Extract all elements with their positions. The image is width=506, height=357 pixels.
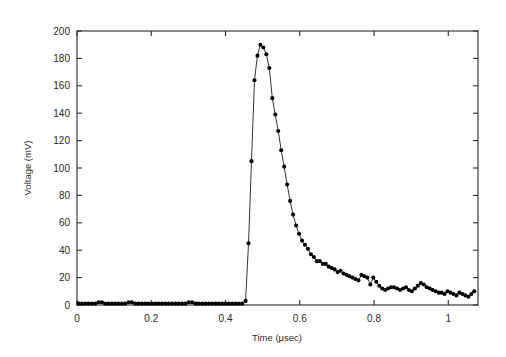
data-point [365, 276, 369, 280]
chart-figure: 00.20.40.60.8102040608010012014016018020… [0, 0, 506, 357]
data-point [244, 299, 248, 303]
y-axis-title: Voltage (mV) [22, 141, 33, 196]
y-tick-label: 160 [53, 80, 70, 91]
x-tick-label: 0.8 [367, 313, 381, 324]
data-point [306, 247, 310, 251]
voltage-pulse-chart: 00.20.40.60.8102040608010012014016018020… [0, 0, 506, 357]
data-point [285, 182, 289, 186]
y-tick-label: 120 [53, 135, 70, 146]
x-tick-label: 0.2 [144, 313, 158, 324]
y-tick-label: 200 [53, 26, 70, 37]
data-point [264, 52, 268, 56]
x-tick-label: 1 [446, 313, 452, 324]
data-point [356, 278, 360, 282]
data-point [249, 159, 253, 163]
data-point [288, 199, 292, 203]
data-point [279, 148, 283, 152]
y-tick-label: 60 [59, 217, 71, 228]
data-point [297, 232, 301, 236]
data-point [270, 96, 274, 100]
data-point [273, 113, 277, 117]
data-point [267, 66, 271, 70]
x-tick-label: 0 [74, 313, 80, 324]
data-point [303, 243, 307, 247]
data-point [252, 78, 256, 82]
y-tick-label: 40 [59, 245, 71, 256]
y-tick-label: 180 [53, 53, 70, 64]
data-point [261, 45, 265, 49]
x-tick-label: 0.6 [293, 313, 307, 324]
x-tick-label: 0.4 [219, 313, 233, 324]
data-point [472, 289, 476, 293]
data-point [255, 54, 259, 58]
data-point [374, 280, 378, 284]
data-point [368, 282, 372, 286]
y-tick-label: 80 [59, 190, 71, 201]
data-point [240, 302, 244, 306]
x-axis-title: Time (μsec) [252, 332, 302, 343]
data-point [312, 255, 316, 259]
data-point [371, 276, 375, 280]
data-point [300, 239, 304, 243]
data-point [276, 129, 280, 133]
data-point [291, 213, 295, 217]
data-point [282, 165, 286, 169]
y-tick-label: 0 [64, 300, 70, 311]
data-point [294, 223, 298, 227]
data-point [246, 241, 250, 245]
y-tick-label: 140 [53, 108, 70, 119]
y-tick-label: 20 [59, 272, 71, 283]
y-tick-label: 100 [53, 163, 70, 174]
chart-background [0, 0, 506, 357]
